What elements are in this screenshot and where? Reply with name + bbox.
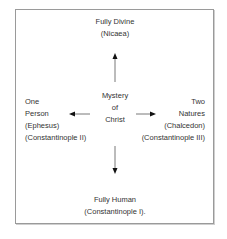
arrows-layer	[0, 0, 227, 239]
arrow-down-head	[113, 168, 118, 174]
arrow-up-head	[113, 53, 118, 59]
arrow-right-head	[150, 112, 156, 117]
arrow-left-head	[69, 112, 75, 117]
